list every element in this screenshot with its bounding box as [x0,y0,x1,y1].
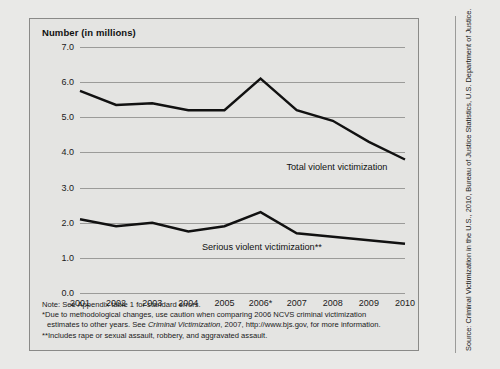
y-axis-tick-label: 3.0 [61,183,74,193]
chart-notes: Note: See Appendix table 1 for standard … [42,300,414,341]
source-divider-rule [455,16,456,353]
y-axis-tick-label: 4.0 [61,147,74,157]
note-citation-post: , 2007, http://www.bjs.gov, for more inf… [220,320,380,329]
series-label: Total violent victimization [286,162,387,172]
y-axis-tick-label: 7.0 [61,42,74,52]
note-methodological-line1: *Due to methodological changes, use caut… [42,310,414,320]
y-axis-tick-label: 0.0 [61,288,74,298]
chart-title: Number (in millions) [42,27,136,38]
note-standard-errors: Note: See Appendix table 1 for standard … [42,300,414,310]
note-includes-offenses: **Includes rape or sexual assault, robbe… [42,331,414,341]
series-label: Serious violent victimization** [202,242,322,252]
note-citation-title: Criminal Victimization [148,320,220,329]
y-axis-tick-label: 5.0 [61,112,74,122]
y-axis-tick-label: 2.0 [61,218,74,228]
y-axis-tick-label: 6.0 [61,77,74,87]
plot-area: 0.01.02.03.04.05.06.07.0 200120022003200… [80,47,405,293]
series-line [80,212,405,244]
note-methodological-line2: estimates to other years. See Criminal V… [42,320,414,330]
note-citation-pre: estimates to other years. See [47,320,148,329]
source-attribution: Source: Criminal Victimization in the U.… [462,18,476,351]
series-line [80,79,405,160]
y-axis-tick-label: 1.0 [61,253,74,263]
gridline [80,293,405,294]
chart-figure: Number (in millions) 0.01.02.03.04.05.06… [29,18,419,351]
